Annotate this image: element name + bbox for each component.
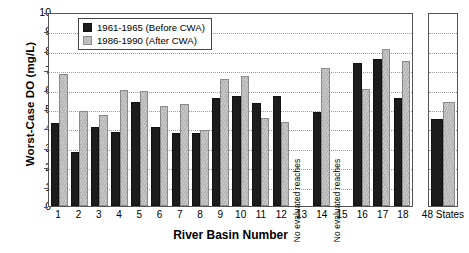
bar-before-basin-11 [252,103,260,206]
legend-swatch-before [83,23,92,32]
x-tick-label-3: 3 [89,209,109,223]
bar-group-48-states [429,14,457,206]
y-tick-label-2: 2 [17,161,51,173]
bar-before-basin-5 [131,102,139,206]
bar-after-basin-17 [382,49,390,206]
bar-before-basin-14 [313,112,321,206]
x-tick-label-14: 14 [312,209,332,223]
y-tick-label-9: 9 [17,25,51,37]
bar-after-basin-10 [241,76,249,206]
x-tick-label-11: 11 [251,209,271,223]
y-tick-label-8: 8 [17,45,51,57]
y-tick-mark-0 [44,207,48,208]
y-tick-label-6: 6 [17,84,51,96]
bar-after-basin-8 [200,130,208,206]
chart-legend: 1961-1965 (Before CWA) 1986-1990 (After … [78,18,212,50]
states-plot-panel [428,13,458,207]
bar-before-basin-6 [151,127,159,206]
bar-before-basin-10 [232,96,240,206]
bar-before-48-states [431,119,443,206]
x-tick-label-16: 16 [352,209,372,223]
legend-entry-after: 1986-1990 (After CWA) [83,35,205,46]
bar-before-basin-17 [373,59,381,206]
bar-before-basin-4 [111,132,119,206]
x-axis-label-48-states: 48 States [406,209,469,220]
bar-after-48-states [443,102,455,206]
bar-after-basin-7 [180,104,188,206]
bar-group-basin-14 [311,14,331,206]
x-tick-label-2: 2 [68,209,88,223]
bar-group-basin-16 [352,14,372,206]
bar-before-basin-1 [51,123,59,206]
x-tick-label-1: 1 [48,209,68,223]
x-tick-label-13: 13 [291,209,311,223]
x-tick-label-9: 9 [210,209,230,223]
bar-after-basin-11 [261,118,269,206]
y-tick-label-7: 7 [17,64,51,76]
chart-container: Worst-Case DO (mg/L) 012345678910 No eva… [0,0,469,253]
bar-before-basin-18 [394,98,402,206]
y-tick-label-10: 10 [17,6,51,18]
bar-after-basin-9 [220,79,228,206]
states-bar-group [429,14,457,206]
x-tick-label-10: 10 [231,209,251,223]
x-tick-label-6: 6 [149,209,169,223]
bar-before-basin-8 [192,133,200,206]
bar-after-basin-4 [120,90,128,206]
y-tick-label-3: 3 [17,142,51,154]
y-tick-label-5: 5 [17,103,51,115]
bar-group-basin-13: No evaluated reaches [291,14,311,206]
x-tick-label-4: 4 [109,209,129,223]
bar-group-basin-12 [271,14,291,206]
x-tick-label-8: 8 [190,209,210,223]
bar-after-basin-14 [321,68,329,206]
x-tick-label-12: 12 [271,209,291,223]
y-tick-label-1: 1 [17,181,51,193]
bar-before-basin-16 [353,63,361,206]
y-tick-label-0: 0 [17,200,51,212]
bar-group-basin-11 [251,14,271,206]
bar-after-basin-18 [402,61,410,206]
x-axis-title: River Basin Number [48,228,413,242]
bar-after-basin-12 [281,122,289,206]
bar-after-basin-1 [59,74,67,206]
bar-before-basin-12 [273,96,281,206]
bar-after-basin-6 [160,106,168,206]
bar-after-basin-2 [79,111,87,206]
legend-label-before: 1961-1965 (Before CWA) [97,22,205,33]
bar-after-basin-16 [362,89,370,206]
bar-group-basin-17 [372,14,392,206]
bar-group-basin-1 [49,14,69,206]
legend-entry-before: 1961-1965 (Before CWA) [83,22,205,33]
bar-after-basin-5 [140,91,148,206]
legend-swatch-after [83,36,92,45]
legend-label-after: 1986-1990 (After CWA) [97,35,197,46]
bar-group-basin-18 [392,14,412,206]
bar-before-basin-3 [91,127,99,206]
bar-before-basin-2 [71,152,79,206]
bar-after-basin-3 [99,115,107,206]
x-tick-label-15: 15 [332,209,352,223]
y-tick-label-4: 4 [17,122,51,134]
bar-group-basin-10 [231,14,251,206]
x-axis-tick-labels: 123456789101112131415161718 [48,209,413,223]
bar-group-basin-9 [210,14,230,206]
x-tick-label-5: 5 [129,209,149,223]
bar-before-basin-7 [172,133,180,206]
bar-group-basin-15: No evaluated reaches [331,14,351,206]
x-tick-label-7: 7 [170,209,190,223]
x-tick-label-17: 17 [373,209,393,223]
bar-before-basin-9 [212,98,220,206]
